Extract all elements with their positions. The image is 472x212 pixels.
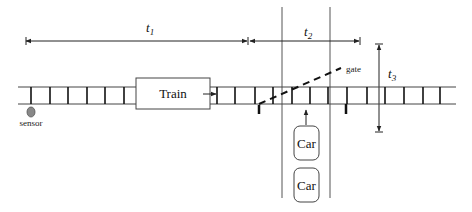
railroad-track xyxy=(18,87,456,104)
interval-t1: t1 xyxy=(26,20,248,45)
t1-label: t1 xyxy=(146,20,154,37)
interval-t2: t2 xyxy=(250,24,360,45)
sensor-label: sensor xyxy=(20,118,43,128)
car-1: Car xyxy=(294,126,319,160)
sensor-icon xyxy=(27,107,35,117)
t3-label: t3 xyxy=(388,66,397,83)
train: Train xyxy=(136,78,216,109)
railroad-crossing-diagram: t1 t2 t3 Train xyxy=(0,0,472,212)
diagram-canvas: t1 t2 t3 Train xyxy=(0,0,472,212)
interval-t3: t3 xyxy=(375,44,397,132)
train-label: Train xyxy=(159,86,187,101)
gate-label: gate xyxy=(346,64,361,74)
sensor: sensor xyxy=(20,107,43,128)
car-1-label: Car xyxy=(297,136,316,151)
car-2-label: Car xyxy=(297,178,316,193)
t2-label: t2 xyxy=(304,24,313,41)
car-2: Car xyxy=(294,168,319,202)
